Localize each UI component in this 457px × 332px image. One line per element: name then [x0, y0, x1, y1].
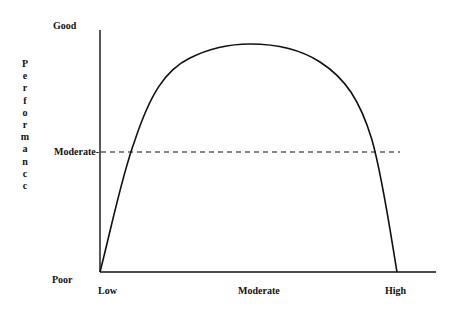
- y-axis-title: Performancc: [20, 58, 30, 192]
- y-tick-moderate: Moderate-: [54, 146, 99, 157]
- y-tick-good: Good: [53, 20, 76, 31]
- x-tick-high: High: [385, 285, 406, 296]
- y-tick-poor: Poor: [52, 274, 73, 285]
- performance-curve: [100, 44, 397, 272]
- x-tick-low: Low: [98, 285, 117, 296]
- x-tick-moderate: Moderate: [238, 285, 280, 296]
